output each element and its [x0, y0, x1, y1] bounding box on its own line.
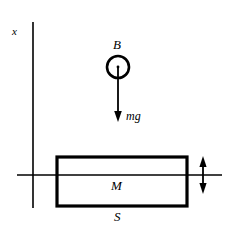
physics-diagram: x B mg M S	[0, 0, 230, 234]
weight-force-arrow-head	[114, 111, 122, 122]
block-rectangle	[57, 157, 187, 206]
motion-arrow-head-up	[199, 156, 206, 167]
diagram-canvas	[0, 0, 230, 234]
bob-label-b: B	[113, 38, 121, 51]
surface-label-s: S	[114, 210, 121, 223]
block-label-m: M	[111, 179, 122, 192]
motion-arrow-head-down	[199, 183, 206, 194]
weight-force-label-mg: mg	[126, 110, 141, 122]
axis-label-x: x	[12, 26, 17, 37]
